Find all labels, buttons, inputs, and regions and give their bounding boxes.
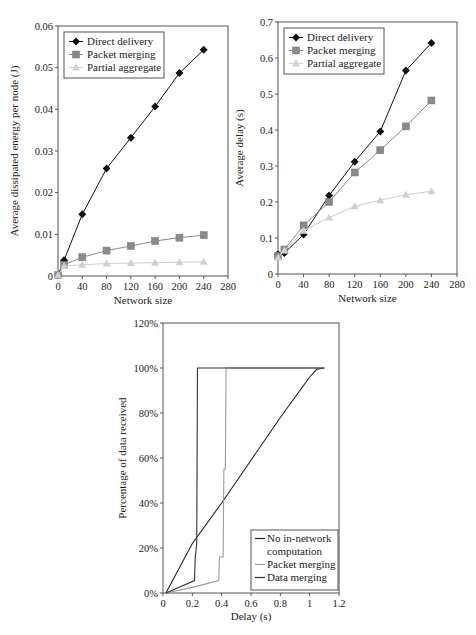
y-tick-label: 0.02 [35, 187, 53, 198]
y-tick-label: 0.05 [35, 62, 53, 73]
y-tick-label: 0.5 [260, 89, 273, 100]
x-tick-label: 1.2 [332, 598, 345, 609]
y-tick-label: 20% [139, 543, 159, 554]
x-tick-label: 0 [160, 598, 165, 609]
square-marker [73, 51, 80, 58]
y-tick-label: 0.3 [260, 161, 273, 172]
legend-label: Partial aggregate [307, 57, 381, 69]
x-tick-label: 280 [449, 279, 465, 290]
y-tick-label: 0.1 [260, 233, 273, 244]
delivery-cdf-chart: 0%20%40%60%80%100%120%00.20.40.60.811.2D… [116, 318, 346, 624]
x-tick-label: 0 [275, 279, 280, 290]
series-partial-aggregate [54, 258, 208, 278]
x-tick-label: 40 [298, 279, 309, 290]
x-tick-label: 0.4 [215, 598, 229, 609]
y-tick-label: 0.03 [35, 146, 53, 157]
x-tick-label: 80 [324, 279, 335, 290]
series-packet-merging [55, 232, 208, 279]
figure-canvas: 00.010.020.030.040.050.06040801201602002… [0, 0, 476, 635]
x-tick-label: 240 [424, 279, 440, 290]
y-axis-label: Percentage of data received [116, 397, 128, 519]
square-marker [351, 169, 358, 176]
y-tick-label: 100% [134, 363, 159, 374]
x-tick-label: 0.2 [186, 598, 199, 609]
series-packet-merging [275, 97, 435, 260]
legend-label: Data merging [267, 571, 327, 583]
y-tick-label: 80% [139, 408, 159, 419]
legend-label: Packet merging [87, 48, 156, 60]
square-marker [377, 147, 384, 154]
y-axis-label: Average delay (s) [233, 109, 246, 187]
legend-label: No in-network [267, 532, 332, 544]
y-tick-label: 120% [134, 318, 159, 329]
x-tick-label: 200 [172, 281, 188, 292]
x-tick-label: 1 [307, 598, 312, 609]
diamond-marker [78, 210, 86, 218]
triangle-marker [427, 187, 435, 194]
y-tick-label: 0.01 [35, 229, 53, 240]
y-tick-label: 0.04 [35, 104, 54, 115]
y-tick-label: 0% [144, 588, 158, 599]
x-tick-label: 120 [123, 281, 139, 292]
x-tick-label: 240 [196, 281, 212, 292]
x-axis-label: Delay (s) [231, 610, 272, 623]
series-partial-aggregate [274, 187, 435, 261]
square-marker [428, 97, 435, 104]
legend-label: Packet merging [267, 558, 336, 570]
y-tick-label: 0.06 [35, 21, 53, 32]
x-tick-label: 80 [101, 281, 112, 292]
x-tick-label: 120 [347, 279, 363, 290]
x-tick-label: 160 [372, 279, 388, 290]
triangle-marker [200, 258, 208, 265]
y-tick-label: 0.4 [260, 125, 274, 136]
square-marker [176, 234, 183, 241]
y-axis-label: Average dissipated energy per node (J) [8, 65, 21, 236]
x-tick-label: 0 [55, 281, 60, 292]
square-marker [293, 47, 300, 54]
square-marker [127, 243, 134, 250]
legend-label: Direct delivery [87, 35, 154, 47]
x-tick-label: 40 [77, 281, 88, 292]
y-tick-label: 0.6 [260, 53, 273, 64]
y-tick-label: 0 [48, 271, 53, 282]
square-marker [79, 254, 86, 261]
energy-chart: 00.010.020.030.040.050.06040801201602002… [8, 21, 236, 307]
x-tick-label: 200 [398, 279, 414, 290]
x-axis-label: Network size [338, 292, 396, 304]
legend-label: computation [267, 545, 322, 557]
y-tick-label: 0.2 [260, 197, 273, 208]
square-marker [103, 247, 110, 254]
square-marker [402, 123, 409, 130]
legend-label: Partial aggregate [87, 61, 161, 73]
x-tick-label: 160 [147, 281, 163, 292]
y-tick-label: 40% [139, 498, 159, 509]
y-tick-label: 60% [139, 453, 159, 464]
square-marker [326, 199, 333, 206]
triangle-marker [325, 213, 333, 220]
y-tick-label: 0 [268, 269, 273, 280]
legend-label: Direct delivery [307, 31, 374, 43]
legend-label: Packet merging [307, 44, 376, 56]
x-tick-label: 280 [220, 281, 236, 292]
delay-chart: 00.10.20.30.40.50.60.7040801201602002402… [233, 17, 465, 305]
square-marker [152, 238, 159, 245]
y-tick-label: 0.7 [260, 17, 273, 28]
x-tick-label: 0.6 [244, 598, 257, 609]
x-axis-label: Network size [114, 294, 172, 306]
x-tick-label: 0.8 [274, 598, 287, 609]
square-marker [200, 232, 207, 239]
